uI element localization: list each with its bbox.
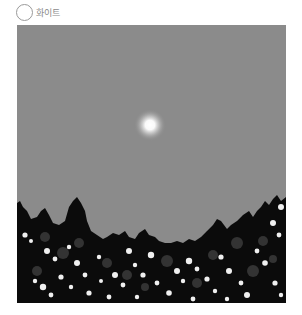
option-label: 화이트 bbox=[36, 6, 60, 19]
moonlit-trees-illustration bbox=[17, 25, 286, 303]
product-image bbox=[17, 25, 286, 303]
color-option-white[interactable]: 화이트 bbox=[16, 3, 60, 21]
radio-circle-icon[interactable] bbox=[16, 4, 33, 21]
moon-icon bbox=[134, 109, 166, 141]
